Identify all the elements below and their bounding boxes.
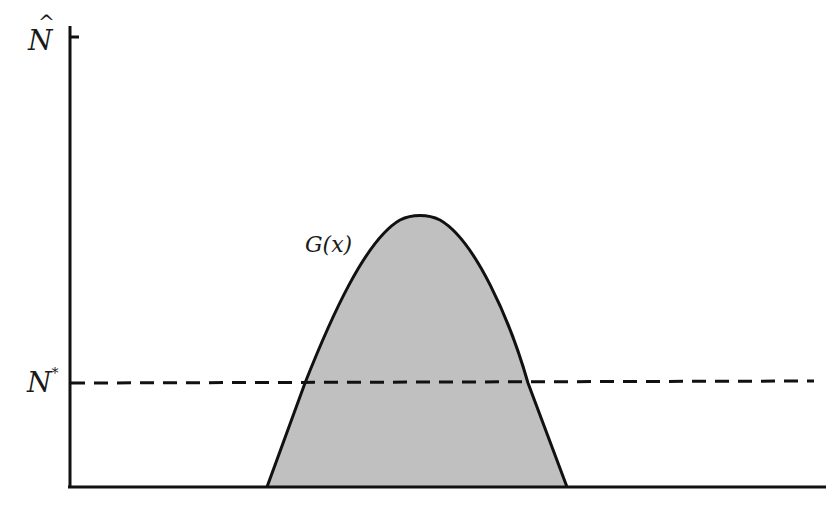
y-label-n-star: N* — [27, 366, 59, 399]
n-star-base: N — [27, 366, 52, 399]
chart-canvas — [0, 0, 839, 521]
y-label-n-hat: ^ N — [28, 24, 53, 57]
n-star-sup: * — [52, 365, 59, 381]
n-star-dashed-line — [71, 381, 814, 383]
n-hat-accent: ^ — [38, 10, 55, 34]
curve-label-g-x: G(x) — [305, 232, 352, 257]
